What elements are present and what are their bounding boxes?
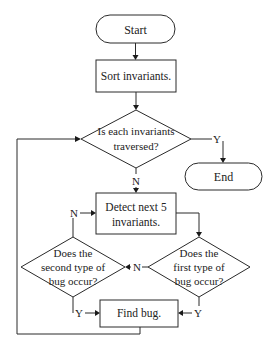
node-sort-label: Sort invariants.	[101, 70, 171, 82]
edge-traversed-detect: N	[132, 168, 140, 193]
node-detect: Detect next 5 invariants.	[96, 193, 176, 234]
node-detect-line2: invariants.	[112, 216, 160, 228]
edge-label-second-yes: Y	[75, 307, 83, 319]
node-end-label: End	[214, 170, 233, 184]
node-second-bug-line1: Does the	[54, 247, 93, 259]
edge-firstbug-secondbug: N	[125, 261, 148, 273]
edge-secondbug-detect: N	[70, 207, 96, 237]
edge-secondbug-findbug: Y	[73, 297, 100, 319]
flowchart: Start Sort invariants. Is each invariant…	[0, 0, 276, 351]
edge-start-sort	[133, 43, 139, 60]
node-start: Start	[96, 15, 175, 43]
edge-label-traversed-no: N	[132, 175, 140, 187]
node-second-bug-line3: bug occur?	[49, 275, 98, 287]
edge-label-second-no: N	[70, 207, 78, 219]
edge-label-first-no: N	[133, 261, 141, 273]
node-sort: Sort invariants.	[96, 60, 176, 92]
edge-label-traversed-yes: Y	[213, 133, 221, 145]
node-end: End	[185, 163, 262, 190]
edge-detect-firstbug	[176, 213, 202, 237]
node-find-bug: Find bug.	[100, 300, 178, 327]
node-start-label: Start	[124, 23, 147, 37]
node-first-bug-line3: bug occur?	[175, 275, 224, 287]
edge-firstbug-findbug: Y	[178, 297, 202, 319]
node-detect-line1: Detect next 5	[105, 201, 167, 213]
node-first-bug-line2: first type of	[173, 261, 225, 273]
node-first-bug-decision: Does the first type of bug occur?	[148, 237, 250, 297]
edge-traversed-end: Y	[191, 133, 226, 163]
edge-sort-traversed	[133, 92, 139, 110]
node-first-bug-line1: Does the	[180, 247, 219, 259]
node-find-bug-label: Find bug.	[117, 307, 161, 320]
node-traversed-line1: Is each invariants	[98, 125, 175, 137]
edge-label-first-yes: Y	[194, 307, 202, 319]
node-traversed-line2: traversed?	[113, 140, 158, 152]
node-traversed-decision: Is each invariants traversed?	[81, 110, 191, 168]
node-second-bug-decision: Does the second type of bug occur?	[21, 237, 125, 297]
node-second-bug-line2: second type of	[41, 261, 105, 273]
